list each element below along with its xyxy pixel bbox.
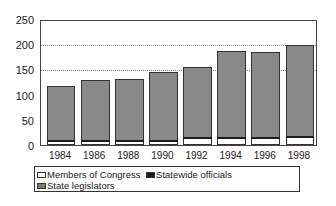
bar-segment-legis [149,72,178,141]
bar-segment-legis [81,80,110,140]
bar-1988 [115,79,144,145]
bar-segment-statewide [251,137,280,139]
bar-segment-legis [47,86,76,140]
bar-segment-legis [115,79,144,140]
bar-segment-statewide [286,136,315,138]
x-tick-label: 1992 [182,150,212,162]
bar-segment-statewide [217,137,246,139]
legend-swatch-legislators [37,183,46,189]
legend-swatch-congress [37,172,46,178]
y-tick-label: 250 [0,14,34,26]
x-tick-label: 1994 [216,150,246,162]
bar-1990 [149,72,178,145]
bar-segment-statewide [149,140,178,142]
y-tick-label: 0 [0,140,34,152]
x-tick-label: 1996 [250,150,280,162]
bar-segment-statewide [81,140,110,142]
bar-segment-legis [217,51,246,137]
legend-item-statewide: Statewide officials [146,169,232,180]
bar-segment-congress [251,139,280,145]
bar-segment-congress [217,139,246,145]
y-tick-label: 200 [0,39,34,51]
legend-item-congress: Members of Congress [37,169,140,180]
y-tick-label: 150 [0,64,34,76]
legend-label-congress: Members of Congress [47,169,140,180]
bar-segment-congress [81,142,110,145]
gridline [41,45,316,46]
bar-1996 [251,52,280,145]
bar-1998 [286,45,315,145]
legend-label-statewide: Statewide officials [156,169,232,180]
x-tick-label: 1986 [79,150,109,162]
bar-segment-congress [47,142,76,145]
legend: Members of Congress Statewide officials … [34,166,300,192]
x-tick-label: 1990 [147,150,177,162]
bar-segment-statewide [115,140,144,142]
legend-item-legislators: State legislators [37,180,115,191]
bar-segment-congress [286,138,315,145]
bar-1992 [183,67,212,145]
bar-1994 [217,51,246,145]
legend-label-legislators: State legislators [47,180,115,191]
bar-segment-congress [183,139,212,145]
stacked-bar-chart: 050100150200250 198419861988199019921994… [0,0,336,206]
y-tick-label: 50 [0,115,34,127]
x-tick-label: 1988 [113,150,143,162]
bar-1986 [81,80,110,145]
x-tick-label: 1984 [45,150,75,162]
bar-1984 [47,86,76,145]
legend-swatch-statewide [146,172,155,178]
bar-segment-congress [115,142,144,145]
y-tick-label: 100 [0,90,34,102]
plot-area [40,20,317,146]
bar-segment-legis [286,45,315,136]
bar-segment-statewide [47,140,76,142]
bar-segment-congress [149,142,178,145]
bar-segment-statewide [183,137,212,139]
bar-segment-legis [251,52,280,137]
bar-segment-legis [183,67,212,137]
x-tick-label: 1998 [284,150,314,162]
